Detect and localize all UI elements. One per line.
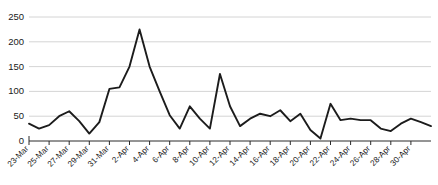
- x-axis-tick-label: 29-Mar: [66, 144, 91, 169]
- data-series-line: [29, 29, 431, 138]
- x-axis-tick-label: 26-Apr: [348, 144, 372, 168]
- x-axis-tick-labels: 23-Mar25-Mar27-Mar29-Mar31-Mar2-Apr4-Apr…: [6, 144, 413, 169]
- y-axis-tick-label: 250: [8, 11, 24, 22]
- chart-plot-area: 050100150200250 23-Mar25-Mar27-Mar29-Mar…: [0, 0, 438, 185]
- x-axis-tick-label: 10-Apr: [188, 144, 212, 168]
- x-axis-tick-marks: [29, 141, 411, 145]
- y-axis-tick-label: 50: [13, 110, 24, 121]
- line-chart: 050100150200250 23-Mar25-Mar27-Mar29-Mar…: [0, 0, 438, 185]
- x-axis-tick-label: 24-Apr: [328, 144, 352, 168]
- x-axis-tick-label: 31-Mar: [86, 144, 111, 169]
- y-axis-tick-labels: 050100150200250: [8, 11, 24, 146]
- x-axis-tick-label: 30-Apr: [389, 144, 413, 168]
- x-axis-tick-label: 2-Apr: [110, 144, 131, 165]
- y-axis-tick-label: 200: [8, 36, 24, 47]
- x-axis-tick-label: 6-Apr: [151, 144, 172, 165]
- x-axis-tick-label: 23-Mar: [6, 144, 31, 169]
- y-axis-tick-label: 150: [8, 61, 24, 72]
- x-axis-tick-label: 18-Apr: [268, 144, 292, 168]
- x-axis-tick-label: 12-Apr: [208, 144, 232, 168]
- x-axis-tick-label: 4-Apr: [130, 144, 151, 165]
- x-axis-tick-label: 14-Apr: [228, 144, 252, 168]
- x-axis-tick-label: 25-Mar: [26, 144, 51, 169]
- x-axis-tick-label: 22-Apr: [308, 144, 332, 168]
- gridlines-group: [29, 17, 431, 116]
- x-axis-tick-label: 27-Mar: [46, 144, 71, 169]
- x-axis-tick-label: 28-Apr: [368, 144, 392, 168]
- x-axis-tick-label: 20-Apr: [288, 144, 312, 168]
- x-axis-tick-label: 16-Apr: [248, 144, 272, 168]
- y-axis-tick-label: 100: [8, 85, 24, 96]
- x-axis-line-group: [29, 136, 431, 141]
